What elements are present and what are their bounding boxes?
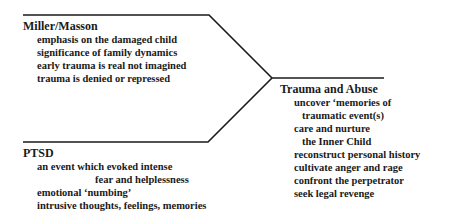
branch-item: emphasis on the damaged child — [23, 33, 186, 46]
branch-ptsd: PTSD an event which evoked intense fear … — [23, 146, 206, 212]
result-item: cultivate anger and rage — [280, 161, 420, 174]
branch-item: an event which evoked intense — [23, 160, 206, 173]
result-item: the Inner Child — [280, 135, 420, 148]
branch-miller-masson: Miller/Masson emphasis on the damaged ch… — [23, 19, 186, 85]
result-trauma-and-abuse: Trauma and Abuse uncover ‘memories of tr… — [280, 82, 420, 200]
result-item: traumatic event(s) — [280, 109, 420, 122]
result-item: confront the perpetrator — [280, 174, 420, 187]
lower-branch-line — [23, 78, 272, 142]
result-item: seek legal revenge — [280, 187, 420, 200]
branch-item: fear and helplessness — [23, 173, 206, 186]
result-item: care and nurture — [280, 122, 420, 135]
branch-title: Miller/Masson — [23, 19, 186, 33]
branch-item: early trauma is real not imagined — [23, 59, 186, 72]
branch-item: significance of family dynamics — [23, 46, 186, 59]
result-title: Trauma and Abuse — [280, 82, 420, 96]
branch-title: PTSD — [23, 146, 206, 160]
result-item: reconstruct personal history — [280, 148, 420, 161]
result-item: uncover ‘memories of — [280, 96, 420, 109]
branch-item: emotional ‘numbing’ — [23, 186, 206, 199]
branch-item: intrusive thoughts, feelings, memories — [23, 199, 206, 212]
branch-item: trauma is denied or repressed — [23, 72, 186, 85]
